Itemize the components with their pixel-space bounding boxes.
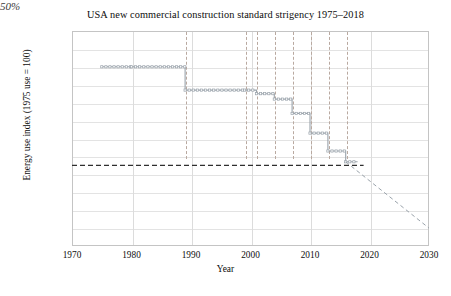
annotation-50-percent: 50% bbox=[0, 0, 20, 12]
chart-figure: USA new commercial construction standard… bbox=[0, 0, 451, 296]
chart-overlay bbox=[0, 0, 451, 296]
